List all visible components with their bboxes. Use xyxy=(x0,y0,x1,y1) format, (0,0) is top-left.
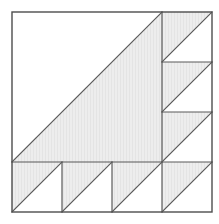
geometric-figure xyxy=(0,0,219,224)
figure-container xyxy=(0,0,219,224)
